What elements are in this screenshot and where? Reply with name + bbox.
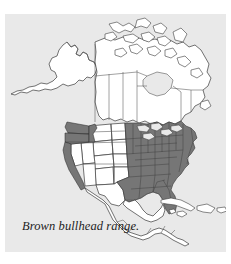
map-svg [5,14,226,252]
north-america-map [5,14,226,252]
figure-root: Brown bullhead range. [0,0,231,264]
figure-caption: Brown bullhead range. [22,219,212,234]
range-map-figure: Brown bullhead range. [5,14,226,252]
region-alaska [11,42,97,95]
region-canada [95,18,211,125]
